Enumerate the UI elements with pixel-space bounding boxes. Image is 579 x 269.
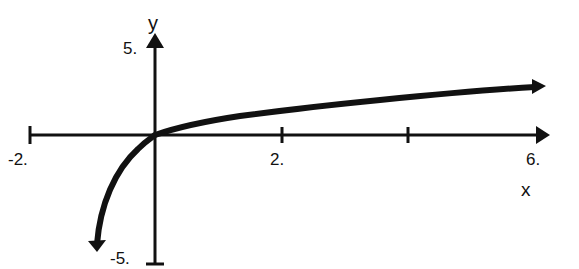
curve-end-arrow-icon xyxy=(88,240,106,252)
y-axis-label: y xyxy=(148,13,158,33)
y-axis-arrow-icon xyxy=(146,33,164,48)
y-max-tick-label: 5. xyxy=(123,40,137,57)
x-axis-label: x xyxy=(521,180,531,199)
graph-canvas xyxy=(0,0,579,269)
y-min-tick-label: -5. xyxy=(110,250,130,267)
curve-start-arrow-icon xyxy=(532,79,546,94)
x-axis-arrow-icon xyxy=(536,126,550,144)
y-axis xyxy=(146,45,164,264)
curve-line xyxy=(97,87,535,244)
x-max-tick-label: 6. xyxy=(526,151,540,168)
x-min-tick-label: -2. xyxy=(8,151,28,168)
x-mid-tick-label: 2. xyxy=(270,151,284,168)
x-axis xyxy=(30,126,540,144)
